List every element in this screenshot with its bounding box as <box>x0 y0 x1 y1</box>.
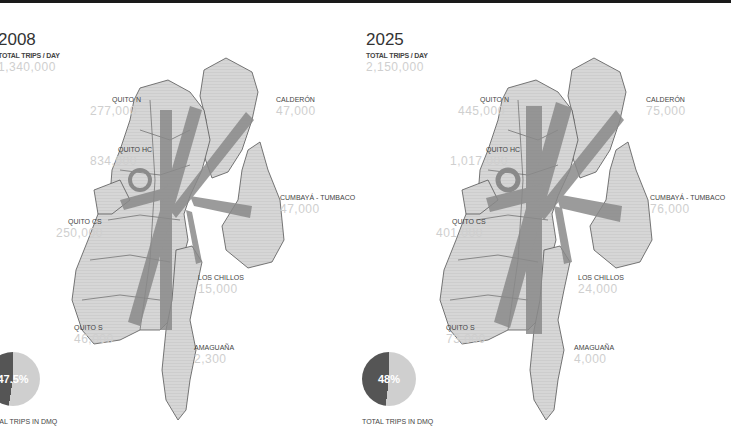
pie-caption: TOTAL TRIPS IN DMQ <box>362 418 433 425</box>
label-amaguana: AMAGUAÑA <box>194 344 234 351</box>
value-calderon: 47,000 <box>276 104 316 118</box>
value-amaguana: 4,000 <box>574 352 607 366</box>
label-cumbaya: CUMBAYÁ - TUMBACO <box>650 194 725 201</box>
pie-caption: TOTAL TRIPS IN DMQ <box>0 418 57 425</box>
value-quito-hc: 1,017,000 <box>450 154 508 168</box>
label-quito-hc: QUITO HC <box>486 146 520 153</box>
value-quito-cs: 250,000 <box>56 226 103 240</box>
value-quito-cs: 401,000 <box>436 226 483 240</box>
label-los-chillos: LOS CHILLOS <box>198 274 244 281</box>
value-cumbaya: 76,000 <box>650 202 690 216</box>
label-amaguana: AMAGUAÑA <box>574 344 614 351</box>
value-quito-n: 445,000 <box>458 104 505 118</box>
label-cumbaya: CUMBAYÁ - TUMBACO <box>280 194 355 201</box>
label-calderon: CALDERÓN <box>646 96 685 103</box>
value-los-chillos: 15,000 <box>198 282 238 296</box>
dmq-map <box>0 0 355 443</box>
panel-2008: 2008 TOTAL TRIPS / DAY 1,340,000 <box>0 0 355 443</box>
value-cumbaya: 47,000 <box>280 202 320 216</box>
pie-percent: 47.5% <box>0 352 40 406</box>
panel-2025: 2025 TOTAL TRIPS / DAY 2,150,000 <box>358 0 723 443</box>
label-quito-cs: QUITO CS <box>452 218 486 225</box>
value-quito-hc: 834,000 <box>90 154 137 168</box>
label-quito-s: QUITO S <box>446 324 475 331</box>
pie-percent: 48% <box>362 352 416 406</box>
label-calderon: CALDERÓN <box>276 96 315 103</box>
value-quito-n: 277,000 <box>90 104 137 118</box>
value-quito-s: 73,000 <box>446 332 486 346</box>
label-quito-n: QUITO N <box>112 96 141 103</box>
label-quito-n: QUITO N <box>480 96 509 103</box>
label-quito-hc: QUITO HC <box>118 146 152 153</box>
label-los-chillos: LOS CHILLOS <box>578 274 624 281</box>
value-los-chillos: 24,000 <box>578 282 618 296</box>
label-quito-s: QUITO S <box>74 324 103 331</box>
value-quito-s: 46,000 <box>74 332 114 346</box>
label-quito-cs: QUITO CS <box>68 218 102 225</box>
value-calderon: 75,000 <box>646 104 686 118</box>
value-amaguana: 2,300 <box>194 352 227 366</box>
